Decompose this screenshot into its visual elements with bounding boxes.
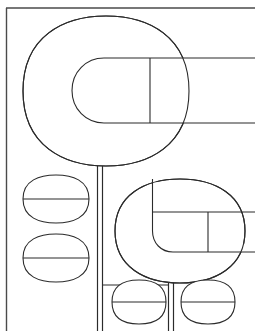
line-art-illustration [0, 0, 255, 331]
leaf-bottom-left [112, 280, 166, 324]
leaf-left-lower [23, 234, 89, 282]
leaf-bottom-right [181, 280, 235, 324]
large-inner-stadium [72, 58, 255, 123]
drawing-canvas [0, 0, 255, 331]
leaf-left-upper [23, 175, 89, 223]
